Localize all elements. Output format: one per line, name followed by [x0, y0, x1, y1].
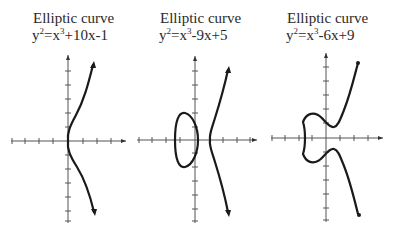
x-axis [271, 135, 383, 141]
panel-curve-3: Elliptic curve y2=x3-6x+9 [262, 0, 394, 233]
endpoint-dot-bottom [357, 213, 361, 217]
curve-1 [68, 65, 94, 212]
panel-2-plot [131, 0, 262, 233]
arrow-down-icon [91, 209, 97, 216]
arrow-down-icon [225, 210, 231, 217]
panel-1-plot [0, 0, 131, 233]
arrow-up-icon [90, 61, 96, 68]
arrow-up-icon [225, 66, 231, 73]
panel-curve-2: Elliptic curve y2=x3-9x+5 [131, 0, 262, 233]
panel-3-plot [262, 0, 394, 233]
panel-curve-1: Elliptic curve y2=x3+10x-1 [0, 0, 131, 233]
curve-2 [175, 70, 228, 212]
endpoint-dot-top [356, 61, 360, 65]
unbounded-component [210, 70, 228, 212]
